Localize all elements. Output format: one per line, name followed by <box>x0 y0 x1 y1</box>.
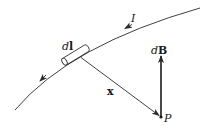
field-vector-label: dB <box>151 45 167 56</box>
field-vector-label-d: d <box>151 44 158 57</box>
field-vector-label-B: B <box>158 44 167 57</box>
current-element-label-d: d <box>62 40 69 53</box>
current-direction-arrow-lower <box>40 75 46 81</box>
biot-savart-diagram: I dl x dB P <box>0 0 212 129</box>
current-element-label: dl <box>62 41 73 52</box>
position-vector-label: x <box>107 86 114 97</box>
point-P-dot <box>159 115 162 118</box>
current-direction-arrow-upper <box>125 25 132 29</box>
current-label: I <box>131 13 135 24</box>
current-element-label-l: l <box>69 40 73 53</box>
diagram-canvas <box>0 0 212 129</box>
position-vector-x <box>81 58 159 116</box>
point-label: P <box>164 113 171 124</box>
